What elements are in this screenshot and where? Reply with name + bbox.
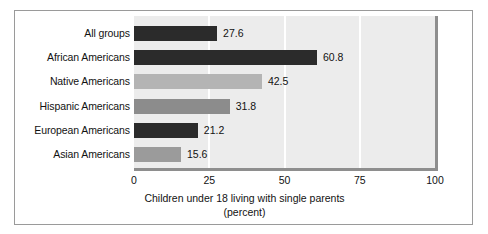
bar: [134, 74, 262, 89]
category-label-all-groups: All groups: [11, 27, 130, 39]
bar: [134, 99, 230, 114]
gridline-75: [359, 16, 361, 168]
category-axis-labels: All groupsAfrican AmericansNative Americ…: [15, 16, 134, 172]
plot-inner: 27.660.842.531.821.215.6: [134, 16, 435, 168]
x-axis-title-line-2: (percent): [15, 205, 474, 219]
bar-value-label: 42.5: [268, 74, 288, 89]
x-axis-title-line-1: Children under 18 living with single par…: [15, 191, 474, 205]
bar-value-label: 15.6: [187, 147, 207, 162]
plot-area: 27.660.842.531.821.215.6: [134, 16, 438, 171]
category-label-asian-americans: Asian Americans: [11, 148, 130, 160]
x-tick-label-50: 50: [279, 174, 291, 186]
x-axis-ticks: 0255075100: [134, 174, 438, 190]
bar-value-label: 27.6: [223, 26, 243, 41]
bar: [134, 50, 317, 65]
category-label-african-americans: African Americans: [11, 51, 130, 63]
x-tick-label-100: 100: [426, 174, 444, 186]
bar-value-label: 60.8: [323, 50, 343, 65]
x-tick-label-0: 0: [131, 174, 137, 186]
x-tick-label-75: 75: [354, 174, 366, 186]
bar: [134, 123, 198, 138]
category-label-hispanic-americans: Hispanic Americans: [11, 100, 130, 112]
bar: [134, 147, 181, 162]
bar-value-label: 31.8: [236, 99, 256, 114]
bar: [134, 26, 217, 41]
chart-figure: All groupsAfrican AmericansNative Americ…: [14, 10, 473, 225]
x-tick-label-25: 25: [203, 174, 215, 186]
category-label-native-americans: Native Americans: [11, 75, 130, 87]
bar-value-label: 21.2: [204, 123, 224, 138]
x-axis-title: Children under 18 living with single par…: [15, 191, 474, 219]
gridline-50: [284, 16, 286, 168]
category-label-european-americans: European Americans: [11, 124, 130, 136]
